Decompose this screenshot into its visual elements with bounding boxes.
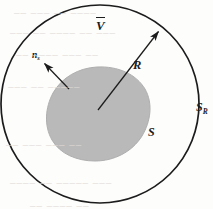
bleedthrough-line: ––– –– ––––– (8, 80, 81, 92)
bleedthrough-line: ––– –– –––– –– ––– (10, 26, 116, 38)
label-radius-text: R (133, 58, 141, 72)
bleedthrough-line: –– ––– ––– –– (6, 138, 82, 150)
label-outer-surface-symbol: S (196, 100, 203, 114)
bleedthrough-line: –– ––– –– –––– (14, 6, 97, 18)
label-inner-surface-text: S (148, 125, 155, 139)
bleedthrough-line: –– –––– ––– –– (16, 48, 99, 60)
label-outer-surface: SR (196, 101, 208, 115)
bleedthrough-line: –––– –– ––––– ––– (10, 176, 112, 188)
bleedthrough-line: –– –––– –– (30, 199, 90, 209)
label-radius: R (133, 59, 141, 72)
label-outer-surface-subscript: R (203, 107, 208, 116)
figure-container: V ns R S SR –– ––– –– ––––––– –– –––– ––… (0, 0, 213, 209)
label-inner-surface: S (148, 126, 155, 138)
